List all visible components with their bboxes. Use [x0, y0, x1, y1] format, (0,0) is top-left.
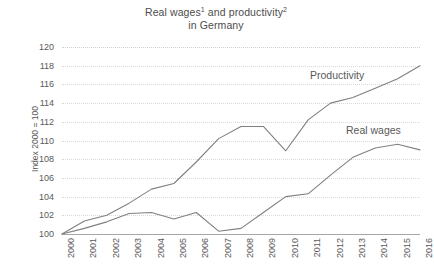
annotation-productivity: Productivity: [310, 69, 364, 81]
chart-title-line-2: in Germany: [0, 19, 432, 32]
y-axis-tick-label-104: 104: [24, 192, 54, 202]
x-axis-tick-label-2014: 2014: [379, 238, 389, 258]
x-axis-tick-label-2007: 2007: [223, 238, 233, 258]
chart-title: Real wages1 and productivity2 in Germany: [0, 6, 432, 32]
y-axis-label: Index 2000 = 100: [30, 106, 40, 172]
y-axis-tick-label-118: 118: [24, 61, 54, 71]
x-axis-tick-label-2003: 2003: [133, 238, 143, 258]
series-lines: [62, 47, 420, 234]
x-axis-tick-label-2001: 2001: [88, 238, 98, 258]
x-axis-tick-label-2016: 2016: [424, 238, 434, 258]
y-axis-tick-label-100: 100: [24, 229, 54, 239]
x-axis-tick-label-2005: 2005: [178, 238, 188, 258]
annotation-real-wages: Real wages: [346, 124, 401, 136]
x-axis-tick-label-2009: 2009: [267, 238, 277, 258]
x-axis-tick-label-2008: 2008: [245, 238, 255, 258]
y-axis-tick-label-116: 116: [24, 79, 54, 89]
x-axis-tick-label-2000: 2000: [66, 238, 76, 258]
chart-title-superscript-2: 2: [283, 6, 287, 13]
x-axis-tick-label-2011: 2011: [312, 238, 322, 257]
series-line-productivity: [62, 66, 420, 234]
x-axis-tick-label-2002: 2002: [111, 238, 121, 258]
chart-title-part-1: Real wages: [145, 6, 201, 18]
x-axis-tick-label-2010: 2010: [290, 238, 300, 258]
x-axis-tick-label-2006: 2006: [200, 238, 210, 258]
series-line-real-wages: [62, 144, 420, 234]
x-axis-tick-label-2015: 2015: [402, 238, 412, 258]
x-axis-tick-label-2013: 2013: [357, 238, 367, 258]
chart-title-line-1: Real wages1 and productivity2: [0, 6, 432, 19]
x-axis-tick-label-2012: 2012: [335, 238, 345, 258]
x-axis-line: [62, 234, 420, 235]
y-axis-tick-label-106: 106: [24, 173, 54, 183]
x-axis-tick-label-2004: 2004: [156, 238, 166, 258]
chart-title-part-2: and productivity: [205, 6, 283, 18]
y-axis-tick-label-120: 120: [24, 42, 54, 52]
y-axis-tick-label-102: 102: [24, 210, 54, 220]
